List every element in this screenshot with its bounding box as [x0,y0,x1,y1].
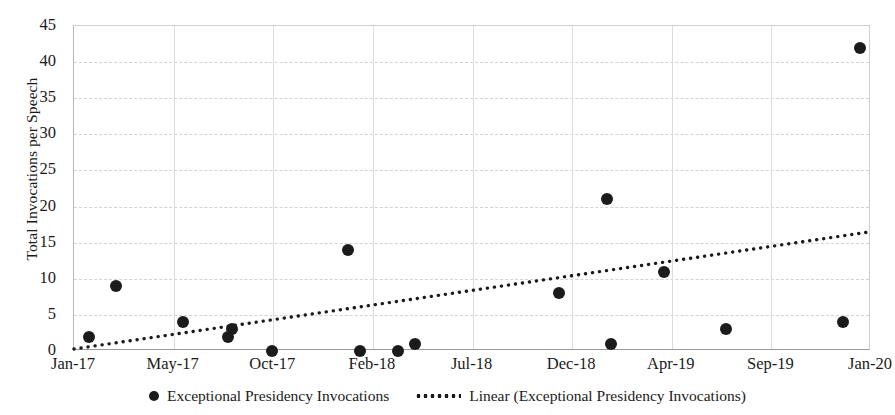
chart-figure: Total Invocations per Speech 05101520253… [0,0,895,415]
x-tick-label: Dec-18 [516,354,626,374]
y-tick-label: 20 [22,198,56,215]
legend-item-scatter: Exceptional Presidency Invocations [149,387,389,405]
filled-circle-icon [149,391,159,401]
x-tick-label: Jul-18 [417,354,527,374]
x-tick-label: Oct-17 [217,354,327,374]
linear-trendline [74,26,869,349]
x-tick-label: Jan-17 [18,354,128,374]
data-point [854,42,866,54]
dotted-line-icon [415,394,461,398]
y-tick-label: 25 [22,161,56,178]
x-tick-label: Apr-19 [616,354,726,374]
chart-legend: Exceptional Presidency Invocations Linea… [0,387,895,405]
plot-area [73,25,870,350]
y-tick-label: 30 [22,125,56,142]
data-point [110,280,122,292]
data-point [83,331,95,343]
x-tick-label: Feb-18 [317,354,427,374]
y-tick-label: 5 [22,306,56,323]
x-tick-label: Jan-20 [815,354,895,374]
y-tick-label: 40 [22,53,56,70]
legend-item-trendline: Linear (Exceptional Presidency Invocatio… [415,387,746,405]
y-tick-label: 15 [22,234,56,251]
data-point [409,338,421,350]
y-tick-label: 45 [22,17,56,34]
legend-label-scatter: Exceptional Presidency Invocations [167,387,389,405]
data-point [342,244,354,256]
data-point [605,338,617,350]
data-point [177,316,189,328]
y-tick-label: 10 [22,270,56,287]
y-tick-label: 35 [22,89,56,106]
x-tick-label: Sep-19 [715,354,825,374]
x-tick-label: May-17 [118,354,228,374]
data-point [658,266,670,278]
data-point [720,323,732,335]
legend-label-trendline: Linear (Exceptional Presidency Invocatio… [469,387,746,405]
